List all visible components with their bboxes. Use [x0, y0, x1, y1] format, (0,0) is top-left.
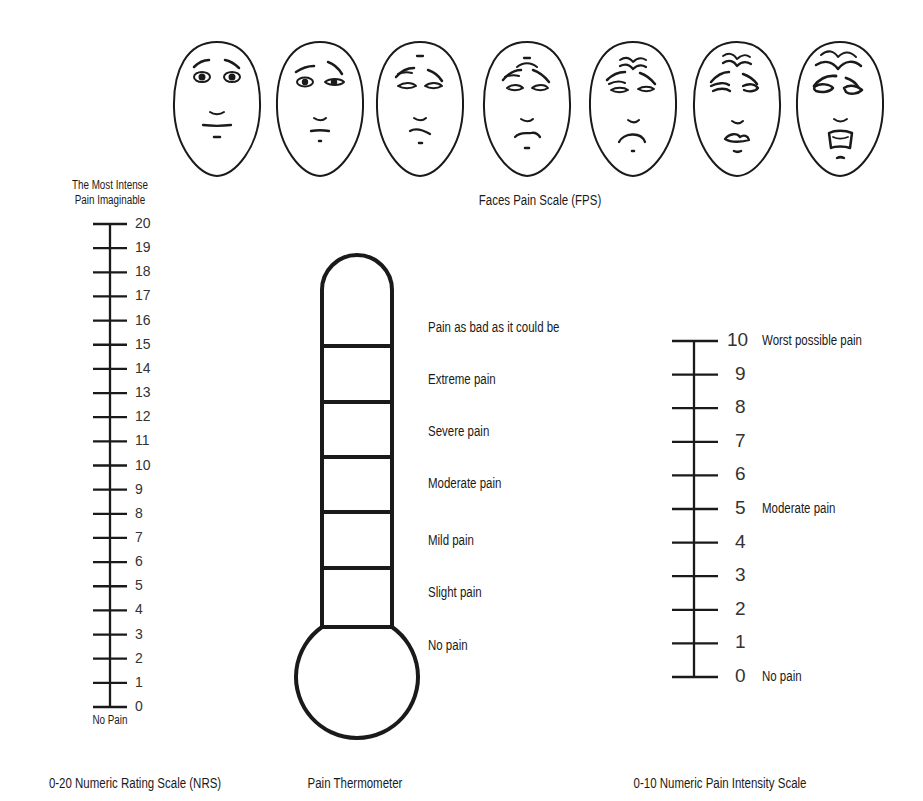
npis-tick-label: 2 [735, 598, 746, 620]
npis-caption: 0-10 Numeric Pain Intensity Scale [605, 775, 835, 791]
npis-tick-label: 5 [735, 497, 746, 519]
npis-tick-label: 6 [735, 463, 746, 485]
npis-tick-label: 1 [735, 631, 746, 653]
npis-tick-label: 8 [735, 396, 746, 418]
npis-tick-label: 10 [727, 329, 748, 351]
npis-tick-label: 4 [735, 531, 746, 553]
npis-tick-label: 9 [735, 363, 746, 385]
npis-tick-label: 0 [735, 665, 746, 687]
npis-tick-label: 3 [735, 564, 746, 586]
npis-anchor-10: Worst possible pain [762, 332, 862, 348]
npis-anchor-0: No pain [762, 668, 802, 684]
npis-anchor-5: Moderate pain [762, 500, 835, 516]
npis-tick-label: 7 [735, 430, 746, 452]
